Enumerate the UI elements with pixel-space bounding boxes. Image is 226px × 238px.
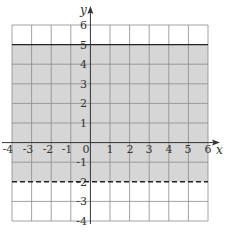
svg-text:2: 2: [80, 97, 87, 110]
svg-text:-1: -1: [76, 156, 87, 169]
svg-text:4: 4: [166, 143, 173, 156]
y-axis-label: y: [79, 3, 87, 17]
svg-text:6: 6: [205, 143, 212, 156]
x-axis-label: x: [216, 143, 223, 157]
svg-text:1: 1: [80, 117, 87, 130]
svg-text:-2: -2: [43, 143, 54, 156]
svg-text:0: 0: [83, 143, 90, 156]
svg-text:4: 4: [80, 58, 87, 71]
svg-text:5: 5: [80, 39, 87, 52]
inequality-graph: x y -4 -3 -2 -1 0 1 2 3 4 5 6 6 5 4 3 2 …: [0, 0, 226, 238]
svg-text:2: 2: [127, 143, 134, 156]
svg-text:-3: -3: [76, 195, 87, 208]
svg-text:3: 3: [80, 78, 87, 91]
svg-text:-4: -4: [76, 215, 87, 228]
svg-text:-4: -4: [3, 143, 14, 156]
svg-text:-3: -3: [23, 143, 34, 156]
svg-text:1: 1: [107, 143, 114, 156]
svg-text:5: 5: [185, 143, 192, 156]
svg-text:-1: -1: [62, 143, 73, 156]
svg-text:6: 6: [80, 19, 87, 32]
svg-text:3: 3: [146, 143, 153, 156]
svg-text:-2: -2: [76, 176, 87, 189]
